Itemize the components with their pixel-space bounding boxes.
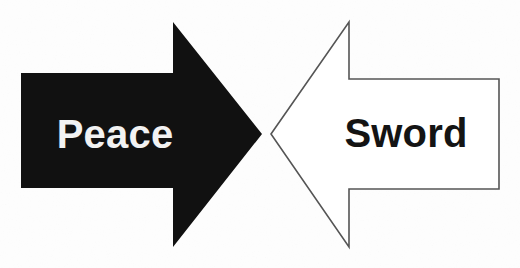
left-arrow-label: Peace xyxy=(57,112,174,157)
figure-canvas: Peace Sword xyxy=(0,0,520,268)
right-arrow-label: Sword xyxy=(344,111,467,156)
